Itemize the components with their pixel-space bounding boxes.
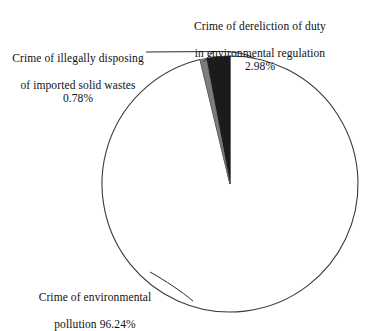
pie-label-pollution-line1: Crime of environmental [39,291,152,303]
pie-label-illegal-value: 0.78% [2,92,154,106]
pie-label-illegal-line1: Crime of illegally disposing [12,52,144,64]
pie-label-dereliction-of-duty: Crime of dereliction of duty in environm… [160,6,360,87]
pie-label-pollution-line2: pollution 96.24% [54,318,135,330]
pie-label-dereliction-value: 2.98% [160,60,360,74]
pie-label-illegal-line2: of imported solid wastes [20,79,135,91]
pie-label-environmental-pollution: Crime of environmental pollution 96.24% [12,277,178,331]
pie-label-dereliction-line2: in environmental regulation [195,47,325,59]
pie-label-illegal-disposing: Crime of illegally disposing of imported… [2,38,154,119]
pie-label-dereliction-line1: Crime of dereliction of duty [194,20,326,32]
